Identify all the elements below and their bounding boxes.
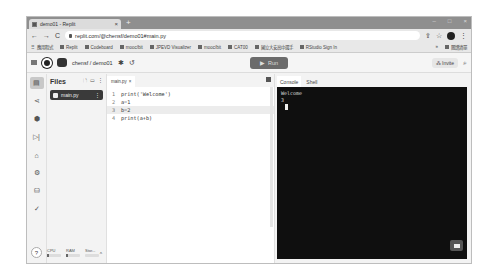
cpu-bar [47, 254, 61, 257]
apps-icon: ⠿ [31, 45, 35, 50]
reading-list-button[interactable]: 閱讀清單 [445, 44, 467, 50]
chat-icon [454, 244, 460, 248]
bookmark-item[interactable]: ⠿應用程式 [31, 44, 53, 50]
tests-tool-icon[interactable]: ✓ [30, 203, 44, 215]
help-button[interactable]: ? [31, 247, 42, 258]
new-file-icon[interactable]: 🗋 [83, 77, 87, 85]
console-panel: Console Shell Welcome 3 [275, 74, 471, 263]
bookmark-item[interactable]: Codeboard [85, 45, 113, 50]
url-input[interactable]: replit.com/@chensf/demo01#main.py [65, 31, 420, 40]
tab-close-button[interactable]: × [114, 21, 118, 27]
file-options-icon[interactable]: ⋮ [95, 92, 100, 98]
settings-icon[interactable]: ✱ [118, 59, 124, 67]
history-icon[interactable]: ↺ [129, 59, 135, 67]
menu-icon[interactable] [31, 60, 37, 65]
codeboard-icon [85, 45, 89, 49]
replit-favicon-icon [32, 22, 37, 27]
debugger-tool-icon[interactable]: ▷| [30, 131, 44, 143]
storage-bar [85, 254, 99, 257]
tab-strip: demo01 - Replit × + – □ × [27, 17, 471, 29]
console-output[interactable]: Welcome 3 [277, 87, 467, 259]
ram-bar [66, 254, 80, 257]
lock-icon [69, 34, 72, 38]
forward-button[interactable]: → [43, 32, 50, 39]
console-line: 3 [281, 97, 463, 104]
address-bar: ← → C replit.com/@chensf/demo01#main.py … [27, 29, 471, 42]
new-folder-icon[interactable]: ▭ [90, 77, 95, 85]
file-pane: Files 🗋 ▭ ⋮ main.py ⋮ CPU RAM Stor... ^ [47, 74, 107, 263]
file-item[interactable]: main.py ⋮ [50, 90, 103, 100]
bookmark-icon [255, 45, 259, 49]
python-file-icon [53, 93, 58, 98]
bookmark-item[interactable]: JPEVD Visualizer [150, 45, 191, 50]
play-icon: ▶ [260, 60, 265, 66]
console-cursor [285, 104, 288, 110]
tab-console[interactable]: Console [277, 76, 301, 87]
chat-button[interactable] [450, 240, 463, 251]
back-button[interactable]: ← [31, 32, 38, 39]
profile-avatar[interactable] [447, 32, 455, 40]
settings-tool-icon[interactable]: ⚙ [30, 167, 44, 179]
code-line-active: 3b=2 [107, 106, 274, 114]
bookmark-icon [228, 45, 232, 49]
menu-kebab-icon[interactable]: ⋮ [460, 32, 467, 40]
editor-tab-main-py[interactable]: main.py × [107, 76, 135, 87]
browser-tab[interactable]: demo01 - Replit × [29, 19, 121, 29]
new-tab-button[interactable]: + [126, 18, 131, 27]
maximize-button[interactable]: □ [448, 18, 452, 24]
url-text: replit.com/@chensf/demo01#main.py [75, 33, 166, 39]
code-line: 4print(a+b) [107, 114, 274, 122]
files-tool-icon[interactable]: ▤ [30, 77, 44, 89]
bookmarks-bar: ⠿應用程式 Replit Codeboard mooc/bit JPEVD Vi… [27, 42, 471, 53]
console-line: Welcome [281, 90, 463, 97]
rstudio-icon [300, 45, 304, 49]
files-title: Files [50, 78, 66, 85]
breadcrumb[interactable]: chensf / demo01 [72, 60, 113, 66]
packages-tool-icon[interactable]: ⬢ [30, 113, 44, 125]
star-icon[interactable]: ☆ [436, 32, 442, 40]
secrets-tool-icon[interactable]: ⌂ [30, 149, 44, 161]
replit-logo[interactable] [42, 58, 52, 68]
bookmark-item[interactable]: mooc/bit [198, 45, 221, 50]
bookmark-item[interactable]: 國立大安高中選手 [255, 44, 293, 50]
code-line: 2a=1 [107, 98, 274, 106]
bookmark-item[interactable]: Replit [60, 45, 78, 50]
reading-list-icon [445, 45, 449, 49]
reload-button[interactable]: C [55, 32, 60, 39]
bookmark-item[interactable]: CAT00 [228, 45, 248, 50]
workspace: ▤ ⋖ ⬢ ▷| ⌂ ⚙ ⛁ ✓ ? Files 🗋 ▭ ⋮ main.py [27, 74, 471, 263]
share-tool-icon[interactable]: ⋖ [30, 95, 44, 107]
visualizer-icon [150, 45, 154, 49]
replit-header: chensf / demo01 ✱ ↺ ▶ Run ⁂ Invite ⌕ [27, 53, 471, 73]
code-line: 1print('Welcome') [107, 90, 274, 98]
files-menu-icon[interactable]: ⋮ [98, 77, 103, 85]
editor-tab-close-button[interactable]: × [129, 79, 132, 84]
user-avatar[interactable] [57, 58, 67, 67]
bookmark-item[interactable]: mooc/bit [120, 45, 143, 50]
link-icon [120, 45, 124, 49]
editor-scrollbar[interactable] [270, 87, 273, 227]
database-tool-icon[interactable]: ⛁ [30, 185, 44, 197]
invite-button[interactable]: ⁂ Invite [432, 58, 458, 68]
browser-window: demo01 - Replit × + – □ × ← → C replit.c… [26, 16, 472, 264]
collapse-button[interactable]: ^ [100, 251, 102, 257]
share-icon[interactable]: ⇪ [425, 32, 431, 40]
run-button[interactable]: ▶ Run [250, 57, 288, 69]
window-controls: – □ × [433, 18, 467, 24]
code-area[interactable]: 1print('Welcome') 2a=1 3b=2 4print(a+b) [107, 87, 274, 122]
split-pane-icon[interactable] [266, 77, 271, 82]
close-window-button[interactable]: × [463, 18, 467, 24]
bookmark-item[interactable]: RStudio Sign In [300, 45, 337, 50]
resource-usage: CPU RAM Stor... [47, 248, 99, 257]
more-bookmarks-button[interactable]: » [435, 44, 438, 50]
tool-rail: ▤ ⋖ ⬢ ▷| ⌂ ⚙ ⛁ ✓ ? [27, 74, 47, 263]
tab-title: demo01 - Replit [40, 21, 75, 27]
code-editor[interactable]: main.py × 1print('Welcome') 2a=1 3b=2 4p… [107, 74, 275, 263]
add-user-icon: ⁂ [436, 60, 441, 66]
tab-shell[interactable]: Shell [303, 76, 320, 87]
link-icon [198, 45, 202, 49]
search-icon[interactable]: ⌕ [463, 59, 467, 67]
minimize-button[interactable]: – [433, 18, 436, 24]
replit-icon [60, 45, 64, 49]
